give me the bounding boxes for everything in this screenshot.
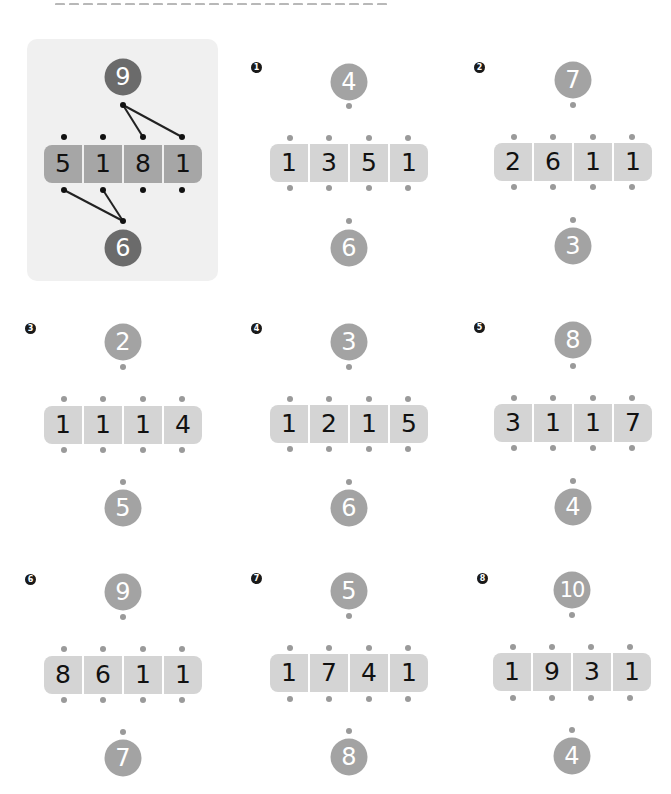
bottom-connect-dot[interactable] <box>569 727 575 733</box>
top-connect-dot[interactable] <box>570 363 576 369</box>
top-connect-dot[interactable] <box>346 613 352 619</box>
cell-top-dot[interactable] <box>287 396 293 402</box>
cell-top-dot[interactable] <box>550 395 556 401</box>
cell-bottom-dot[interactable] <box>590 184 596 190</box>
cell-top-dot[interactable] <box>511 395 517 401</box>
problem-number-badge: 2 <box>474 62 485 73</box>
cell-bottom-dot[interactable] <box>590 445 596 451</box>
cell-top-dot[interactable] <box>590 134 596 140</box>
top-connect-dot[interactable] <box>346 364 352 370</box>
cell-bottom-dot[interactable] <box>366 185 372 191</box>
cell-top-dot[interactable] <box>179 646 185 652</box>
cell-bottom-dot[interactable] <box>287 696 293 702</box>
strip-cell: 1 <box>493 653 531 691</box>
cell-top-dot[interactable] <box>140 396 146 402</box>
bottom-connect-dot[interactable] <box>120 729 126 735</box>
strip-cell: 1 <box>390 144 428 182</box>
number-strip: 2 6 1 1 <box>494 143 652 181</box>
cell-top-dot[interactable] <box>549 644 555 650</box>
cell-top-dot[interactable] <box>550 134 556 140</box>
cell-bottom-dot[interactable] <box>511 445 517 451</box>
cell-bottom-dot[interactable] <box>405 446 411 452</box>
cell-bottom-dot[interactable] <box>627 695 633 701</box>
strip-cell: 1 <box>124 656 162 694</box>
cell-top-dot[interactable] <box>287 645 293 651</box>
cell-bottom-dot[interactable] <box>510 695 516 701</box>
top-connect-dot[interactable] <box>346 103 352 109</box>
cell-top-dot[interactable] <box>61 396 67 402</box>
cell-top-dot[interactable] <box>510 644 516 650</box>
cell-bottom-dot[interactable] <box>179 447 185 453</box>
cell-bottom-dot[interactable] <box>549 695 555 701</box>
cell-bottom-dot[interactable] <box>511 184 517 190</box>
cell-top-dot[interactable] <box>61 646 67 652</box>
cell-top-dot[interactable] <box>511 134 517 140</box>
cell-bottom-dot[interactable] <box>405 696 411 702</box>
cell-top-dot[interactable] <box>366 396 372 402</box>
example-cell-top-dot <box>61 134 67 140</box>
cell-top-dot[interactable] <box>100 396 106 402</box>
cell-bottom-dot[interactable] <box>326 446 332 452</box>
problem-number-badge: 4 <box>251 323 262 334</box>
cell-bottom-dot[interactable] <box>100 697 106 703</box>
cell-top-dot[interactable] <box>179 396 185 402</box>
cell-bottom-dot[interactable] <box>100 447 106 453</box>
bottom-connect-dot[interactable] <box>346 728 352 734</box>
cell-top-dot[interactable] <box>629 134 635 140</box>
clipped-heading <box>55 0 435 5</box>
problem-number-badge: 8 <box>477 573 488 584</box>
cell-top-dot[interactable] <box>326 396 332 402</box>
strip-cell: 7 <box>614 404 652 442</box>
cell-bottom-dot[interactable] <box>588 695 594 701</box>
strip-cell: 1 <box>84 406 122 444</box>
top-number: 3 <box>331 324 368 361</box>
cell-bottom-dot[interactable] <box>61 697 67 703</box>
top-connect-dot[interactable] <box>569 612 575 618</box>
cell-bottom-dot[interactable] <box>550 445 556 451</box>
cell-top-dot[interactable] <box>366 645 372 651</box>
cell-bottom-dot[interactable] <box>326 696 332 702</box>
cell-bottom-dot[interactable] <box>405 185 411 191</box>
bottom-connect-dot[interactable] <box>346 479 352 485</box>
cell-top-dot[interactable] <box>405 396 411 402</box>
number-strip: 8 6 1 1 <box>44 656 202 694</box>
cell-bottom-dot[interactable] <box>629 445 635 451</box>
cell-top-dot[interactable] <box>590 395 596 401</box>
top-connect-dot[interactable] <box>570 102 576 108</box>
cell-bottom-dot[interactable] <box>61 447 67 453</box>
strip-cell: 1 <box>390 654 428 692</box>
strip-cell: 2 <box>310 405 348 443</box>
bottom-connect-dot[interactable] <box>346 218 352 224</box>
bottom-connect-dot[interactable] <box>570 217 576 223</box>
cell-bottom-dot[interactable] <box>366 696 372 702</box>
cell-top-dot[interactable] <box>627 644 633 650</box>
cell-top-dot[interactable] <box>629 395 635 401</box>
strip-cell: 4 <box>350 654 388 692</box>
cell-top-dot[interactable] <box>100 646 106 652</box>
cell-bottom-dot[interactable] <box>287 446 293 452</box>
cell-bottom-dot[interactable] <box>179 697 185 703</box>
cell-bottom-dot[interactable] <box>629 184 635 190</box>
cell-bottom-dot[interactable] <box>140 447 146 453</box>
top-connect-dot[interactable] <box>120 614 126 620</box>
top-number: 10 <box>554 572 591 609</box>
example-cell-bottom-dot <box>100 187 106 193</box>
cell-top-dot[interactable] <box>287 135 293 141</box>
number-strip: 1 9 3 1 <box>493 653 651 691</box>
cell-bottom-dot[interactable] <box>366 446 372 452</box>
cell-top-dot[interactable] <box>326 135 332 141</box>
cell-top-dot[interactable] <box>140 646 146 652</box>
cell-top-dot[interactable] <box>326 645 332 651</box>
cell-top-dot[interactable] <box>366 135 372 141</box>
cell-bottom-dot[interactable] <box>550 184 556 190</box>
cell-top-dot[interactable] <box>405 645 411 651</box>
strip-cell: 1 <box>534 404 572 442</box>
cell-bottom-dot[interactable] <box>326 185 332 191</box>
cell-bottom-dot[interactable] <box>287 185 293 191</box>
cell-bottom-dot[interactable] <box>140 697 146 703</box>
cell-top-dot[interactable] <box>588 644 594 650</box>
bottom-connect-dot[interactable] <box>570 478 576 484</box>
cell-top-dot[interactable] <box>405 135 411 141</box>
top-connect-dot[interactable] <box>120 364 126 370</box>
bottom-connect-dot[interactable] <box>120 479 126 485</box>
